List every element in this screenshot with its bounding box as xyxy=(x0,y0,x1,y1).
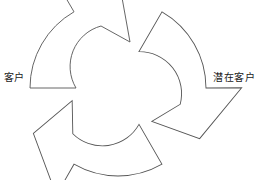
cycle-diagram-svg xyxy=(0,0,258,180)
label-customer: 客户 xyxy=(4,73,25,83)
arrow-bottom-left-shape xyxy=(19,78,162,180)
arrow-top-shape xyxy=(30,0,130,88)
arrow-top-group xyxy=(30,0,130,88)
cycle-diagram: 客户 潜在客户 xyxy=(0,0,258,180)
label-prospect: 潜在客户 xyxy=(213,73,255,83)
arrow-bottom-left-group xyxy=(19,78,162,180)
